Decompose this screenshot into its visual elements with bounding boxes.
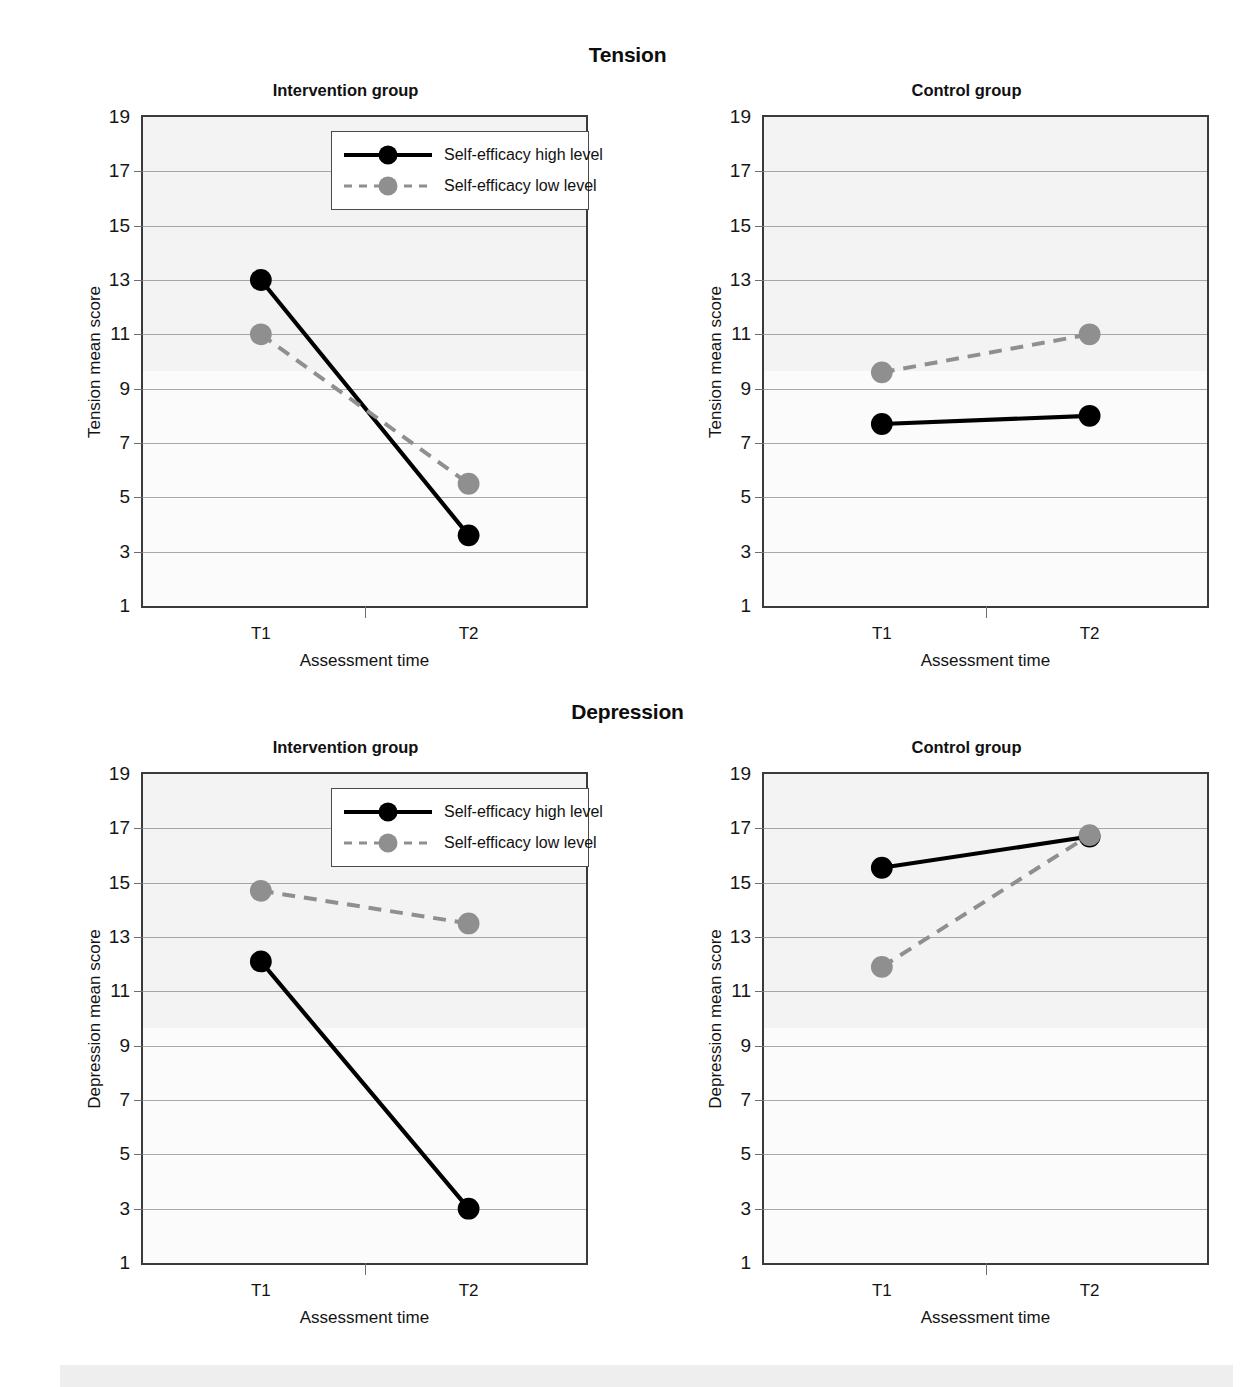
data-point-marker <box>1079 323 1101 345</box>
panel-title-depression-control: Control group <box>706 738 1227 757</box>
series-line-high-level <box>261 280 469 535</box>
y-axis-tick-label: 1 <box>740 1252 751 1274</box>
legend-key-swatch <box>342 832 434 854</box>
y-axis-tick-mark <box>755 883 764 884</box>
y-axis-tick-mark <box>755 552 764 553</box>
y-axis-title: Tension mean score <box>85 285 105 437</box>
y-axis-tick-mark <box>134 828 143 829</box>
y-axis-tick-mark <box>134 443 143 444</box>
x-axis-title: Assessment time <box>921 651 1050 671</box>
x-axis-tick-mark <box>365 606 366 618</box>
x-axis-tick-label-t1: T1 <box>872 1281 892 1301</box>
y-axis-tick-label: 9 <box>119 1035 130 1057</box>
x-axis-tick-mark <box>365 1263 366 1275</box>
y-axis-tick-label: 13 <box>109 269 130 291</box>
y-axis-tick-label: 13 <box>730 926 751 948</box>
y-axis-tick-label: 7 <box>119 432 130 454</box>
y-axis-tick-label: 9 <box>740 1035 751 1057</box>
data-point-marker <box>871 857 893 879</box>
y-axis-tick-mark <box>755 171 764 172</box>
legend: Self-efficacy high levelSelf-efficacy lo… <box>331 131 589 210</box>
plot-area-tension-control: 135791113151719T1T2Assessment timeTensio… <box>762 115 1209 608</box>
data-point-marker <box>458 473 480 495</box>
data-point-marker <box>250 951 272 973</box>
chart-panel-depression-control: Control group135791113151719T1T2Assessme… <box>706 738 1227 1335</box>
y-axis-tick-label: 5 <box>740 486 751 508</box>
figure-root: Tension Depression Intervention group135… <box>0 0 1255 1387</box>
y-axis-tick-mark <box>134 226 143 227</box>
legend-item-label: Self-efficacy low level <box>444 177 597 195</box>
data-point-marker <box>458 913 480 935</box>
y-axis-tick-mark <box>755 280 764 281</box>
y-axis-tick-label: 9 <box>740 378 751 400</box>
section-super-title-tension: Tension <box>0 43 1255 67</box>
y-axis-tick-mark <box>134 389 143 390</box>
y-axis-tick-label: 9 <box>119 378 130 400</box>
y-axis-tick-label: 1 <box>119 595 130 617</box>
scan-artifact-edge <box>57 1365 60 1387</box>
x-axis-title: Assessment time <box>300 651 429 671</box>
x-axis-tick-mark <box>986 1263 987 1275</box>
chart-panel-tension-intervention: Intervention group135791113151719T1T2Ass… <box>85 81 606 678</box>
y-axis-tick-label: 3 <box>119 541 130 563</box>
chart-panel-depression-intervention: Intervention group135791113151719T1T2Ass… <box>85 738 606 1335</box>
panel-title-tension-control: Control group <box>706 81 1227 100</box>
data-point-marker <box>871 413 893 435</box>
x-axis-tick-mark <box>986 606 987 618</box>
y-axis-tick-label: 17 <box>730 817 751 839</box>
series-line-high-level <box>882 416 1090 424</box>
legend-key-swatch <box>342 175 434 197</box>
x-axis-tick-label-t2: T2 <box>1080 624 1100 644</box>
legend-item-low-level: Self-efficacy low level <box>342 827 576 858</box>
chart-panel-tension-control: Control group135791113151719T1T2Assessme… <box>706 81 1227 678</box>
y-axis-tick-mark <box>755 334 764 335</box>
y-axis-tick-label: 11 <box>731 980 751 1002</box>
y-axis-tick-mark <box>755 1154 764 1155</box>
x-axis-tick-label-t2: T2 <box>1080 1281 1100 1301</box>
y-axis-tick-mark <box>755 389 764 390</box>
y-axis-title: Depression mean score <box>85 929 105 1109</box>
y-axis-tick-label: 19 <box>730 763 751 785</box>
y-axis-tick-label: 7 <box>740 1089 751 1111</box>
legend: Self-efficacy high levelSelf-efficacy lo… <box>331 788 589 867</box>
y-axis-tick-label: 15 <box>109 215 130 237</box>
legend-key-marker <box>379 145 398 164</box>
y-axis-tick-mark <box>134 937 143 938</box>
panel-title-depression-intervention: Intervention group <box>85 738 606 757</box>
y-axis-tick-mark <box>755 828 764 829</box>
series-layer <box>764 774 1207 1263</box>
y-axis-tick-mark <box>755 1100 764 1101</box>
y-axis-tick-label: 17 <box>730 160 751 182</box>
series-layer <box>764 117 1207 606</box>
data-point-marker <box>250 880 272 902</box>
y-axis-tick-label: 11 <box>110 980 130 1002</box>
x-axis-tick-label-t2: T2 <box>459 624 479 644</box>
legend-key-swatch <box>342 144 434 166</box>
y-axis-tick-mark <box>134 991 143 992</box>
y-axis-tick-mark <box>755 226 764 227</box>
series-line-low-level <box>882 835 1090 967</box>
y-axis-title: Tension mean score <box>706 285 726 437</box>
y-axis-tick-label: 15 <box>730 215 751 237</box>
legend-key-marker <box>379 802 398 821</box>
legend-item-label: Self-efficacy high level <box>444 803 603 821</box>
y-axis-tick-mark <box>134 171 143 172</box>
series-line-high-level <box>261 961 469 1208</box>
data-point-marker <box>458 524 480 546</box>
y-axis-tick-label: 3 <box>740 1198 751 1220</box>
scan-artifact-band <box>57 1365 1233 1387</box>
data-point-marker <box>871 361 893 383</box>
data-point-marker <box>1079 405 1101 427</box>
y-axis-tick-label: 11 <box>731 323 751 345</box>
legend-key-swatch <box>342 801 434 823</box>
legend-item-low-level: Self-efficacy low level <box>342 170 576 201</box>
data-point-marker <box>250 323 272 345</box>
y-axis-tick-label: 19 <box>109 763 130 785</box>
y-axis-tick-mark <box>134 552 143 553</box>
legend-item-label: Self-efficacy low level <box>444 834 597 852</box>
y-axis-tick-label: 7 <box>740 432 751 454</box>
y-axis-tick-label: 5 <box>119 1143 130 1165</box>
y-axis-tick-mark <box>134 1209 143 1210</box>
y-axis-tick-label: 5 <box>119 486 130 508</box>
y-axis-tick-label: 3 <box>119 1198 130 1220</box>
